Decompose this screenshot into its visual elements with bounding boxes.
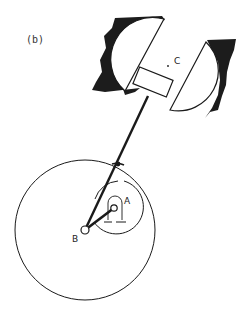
center-point-c — [167, 65, 169, 67]
pivot-a — [111, 205, 117, 211]
panel-label: (b) — [26, 34, 44, 45]
pivot-b — [81, 226, 89, 234]
label-b: B — [72, 234, 78, 244]
diagram-canvas: (b) C A B — [0, 0, 251, 318]
label-a: A — [124, 196, 131, 206]
right-half-disk — [170, 42, 218, 111]
slider-block — [133, 67, 173, 97]
label-c: C — [174, 56, 180, 66]
